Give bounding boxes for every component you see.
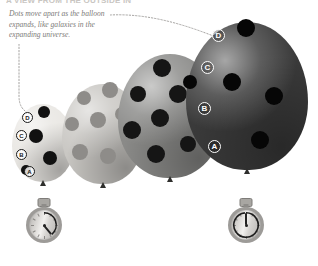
balloon-knot xyxy=(167,176,174,182)
balloon-knot xyxy=(40,180,47,186)
balloon-knot xyxy=(100,182,107,188)
balloon-dot xyxy=(43,151,57,165)
balloon-marker-a: A xyxy=(208,140,221,153)
balloon-marker-c: C xyxy=(201,61,214,74)
balloon-dot xyxy=(251,131,269,149)
balloon-marker-b: B xyxy=(16,149,27,160)
balloon-dot xyxy=(100,148,116,164)
balloon-dot xyxy=(90,112,106,128)
cutoff-headline: A VIEW FROM THE OUTSIDE IN xyxy=(6,0,256,4)
balloon-dot xyxy=(123,121,141,139)
caption-text: Dots move apart as the balloon expands, … xyxy=(9,9,113,41)
stopwatch-start xyxy=(26,198,62,244)
balloon-dot xyxy=(237,19,255,37)
leader-line-to-small-balloon xyxy=(18,44,32,114)
balloon-dot xyxy=(77,91,91,105)
balloon-universe-illustration: A VIEW FROM THE OUTSIDE IN Dots move apa… xyxy=(0,0,318,266)
balloon-dot xyxy=(265,87,283,105)
balloon-marker-d: D xyxy=(212,29,225,42)
stopwatch-case xyxy=(228,207,264,243)
stopwatch-pivot xyxy=(245,224,248,227)
balloon-marker-a: A xyxy=(24,166,35,177)
balloon-stage-4: DCBA xyxy=(186,22,308,170)
balloon-dot xyxy=(223,73,241,91)
balloon-marker-c: C xyxy=(16,130,27,141)
balloon-dot xyxy=(72,144,88,160)
balloon-dot xyxy=(180,136,196,152)
stopwatch-end xyxy=(228,198,264,244)
stopwatch-face xyxy=(29,210,59,240)
balloon-dot xyxy=(153,59,171,77)
balloon-dot xyxy=(147,145,165,163)
balloon-dot xyxy=(29,129,43,143)
balloon-dot xyxy=(130,86,146,102)
balloon-dot xyxy=(151,109,169,127)
stopwatch-case xyxy=(26,207,62,243)
balloon-dot xyxy=(102,82,118,98)
balloon-dot xyxy=(38,106,50,118)
balloon-marker-b: B xyxy=(198,102,211,115)
balloon-dot xyxy=(183,75,197,89)
leader-line-to-large-balloon xyxy=(110,12,218,40)
balloon-marker-d: D xyxy=(22,112,33,123)
balloon-dot xyxy=(169,85,187,103)
balloon-dot xyxy=(65,117,79,131)
balloon-knot xyxy=(244,168,251,174)
stopwatch-face xyxy=(231,210,261,240)
stopwatch-pivot xyxy=(43,224,46,227)
